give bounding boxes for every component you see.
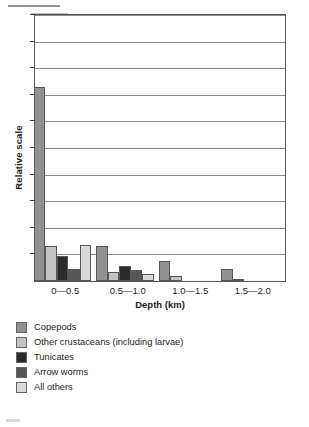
y-axis-title: Relative scale: [13, 108, 24, 208]
bar: [57, 256, 69, 281]
legend-label: Arrow worms: [34, 367, 88, 378]
x-tick-label: 1.0—1.5: [157, 285, 223, 296]
bar: [233, 279, 245, 281]
legend-item: Other crustaceans (including larvae): [16, 335, 296, 350]
scan-artifact-mark: [6, 419, 20, 422]
legend-item: Copepods: [16, 320, 296, 335]
bar: [80, 245, 92, 281]
legend-swatch-icon: [16, 352, 27, 363]
chart-legend: CopepodsOther crustaceans (including lar…: [16, 320, 296, 395]
bar: [131, 270, 143, 281]
legend-swatch-icon: [16, 337, 27, 348]
legend-label: All others: [34, 382, 73, 393]
legend-swatch-icon: [16, 382, 27, 393]
figure-zooplankton-by-depth: Relative scale 0—0.50.5—1.01.0—1.51.5—2.…: [0, 0, 309, 427]
bar: [170, 276, 182, 281]
legend-item: Arrow worms: [16, 365, 296, 380]
y-tick: [30, 67, 35, 68]
bar: [45, 246, 57, 281]
bar: [68, 269, 80, 281]
x-axis-tick-labels: 0—0.50.5—1.01.0—1.51.5—2.0: [34, 285, 286, 299]
x-tick-label: 1.5—2.0: [220, 285, 286, 296]
y-tick: [30, 14, 35, 15]
bar: [108, 272, 120, 281]
bar: [34, 87, 46, 281]
legend-swatch-icon: [16, 367, 27, 378]
scan-artifact-line: [8, 5, 60, 7]
bar: [119, 266, 131, 281]
legend-swatch-icon: [16, 322, 27, 333]
x-axis-title: Depth (km): [34, 299, 286, 310]
plot-area: [34, 14, 286, 282]
legend-item: All others: [16, 380, 296, 395]
bar: [142, 274, 154, 281]
legend-label: Copepods: [34, 322, 76, 333]
x-tick-label: 0—0.5: [32, 285, 98, 296]
legend-label: Other crustaceans (including larvae): [34, 337, 183, 348]
y-tick: [30, 41, 35, 42]
bar: [221, 269, 233, 281]
legend-item: Tunicates: [16, 350, 296, 365]
legend-label: Tunicates: [34, 352, 74, 363]
bar: [159, 261, 171, 281]
bar: [96, 246, 108, 281]
x-tick-label: 0.5—1.0: [95, 285, 161, 296]
bars-layer: [35, 15, 285, 281]
